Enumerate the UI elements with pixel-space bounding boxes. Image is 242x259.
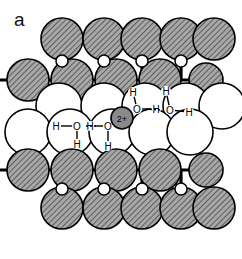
bridging-atom xyxy=(56,55,68,67)
bridging-atom xyxy=(175,55,187,67)
lattice-atom-hatched xyxy=(7,149,49,191)
bridging-atom xyxy=(98,55,110,67)
lattice-atom-hatched xyxy=(193,187,235,229)
bridging-atom xyxy=(175,183,187,195)
oxygen-label: O xyxy=(133,104,141,115)
bridging-atom xyxy=(136,183,148,195)
figure-panel: a OHHOHHOHHOHH 2+ xyxy=(0,0,242,259)
lattice-atom-hatched xyxy=(121,18,163,60)
interlayer-atom-open xyxy=(47,109,93,155)
hydrogen-label: H xyxy=(162,86,169,97)
oxygen-label: O xyxy=(73,121,81,132)
bridging-atom xyxy=(98,183,110,195)
lattice-atom-hatched xyxy=(83,18,125,60)
hydrogen-label: H xyxy=(185,107,192,118)
lattice-atom-hatched xyxy=(41,18,83,60)
hydrogen-label: H xyxy=(52,121,59,132)
bridging-atom xyxy=(56,183,68,195)
oxygen-label: O xyxy=(104,121,112,132)
hydrogen-label: H xyxy=(129,87,136,98)
bridging-atom xyxy=(136,55,148,67)
cation-group: 2+ xyxy=(111,107,133,129)
cation-label: 2+ xyxy=(117,114,127,124)
hydrogen-label: H xyxy=(73,139,80,150)
lattice-atom-hatched xyxy=(189,153,223,187)
hydrogen-label: H xyxy=(104,141,111,152)
oxygen-label: O xyxy=(166,105,174,116)
interlayer-atom-open xyxy=(5,109,51,155)
structure-diagram: OHHOHHOHHOHH 2+ xyxy=(0,0,242,259)
lattice-atom-hatched xyxy=(193,18,235,60)
